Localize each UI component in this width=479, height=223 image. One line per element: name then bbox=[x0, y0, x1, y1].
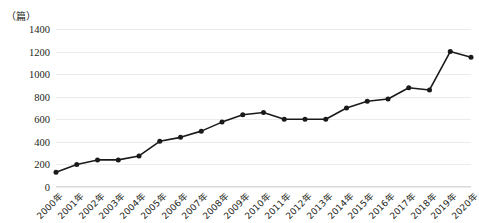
data-point bbox=[261, 110, 266, 115]
data-point bbox=[282, 117, 287, 122]
y-axis-tick-label: 1200 bbox=[29, 46, 50, 57]
data-point bbox=[469, 55, 474, 60]
data-point bbox=[427, 87, 432, 92]
y-axis-tick-label: 0 bbox=[45, 182, 50, 193]
data-point bbox=[240, 112, 245, 117]
data-point bbox=[448, 49, 453, 54]
data-point bbox=[323, 117, 328, 122]
data-point bbox=[74, 162, 79, 167]
data-point bbox=[95, 157, 100, 162]
data-point bbox=[386, 96, 391, 101]
y-axis-tick-label: 200 bbox=[34, 159, 50, 170]
data-point bbox=[199, 129, 204, 134]
data-point bbox=[54, 170, 59, 175]
data-point bbox=[344, 106, 349, 111]
data-point bbox=[220, 120, 225, 125]
data-point bbox=[365, 99, 370, 104]
plot-area: 0200400600800100012001400 bbox=[56, 29, 471, 187]
y-axis-tick-label: 800 bbox=[34, 91, 50, 102]
data-point bbox=[137, 153, 142, 158]
y-axis-unit-label: （篇） bbox=[6, 8, 36, 23]
y-axis-tick-label: 1400 bbox=[29, 24, 50, 35]
x-axis-ticks: 2000年2001年2002年2003年2004年2005年2006年2007年… bbox=[56, 190, 471, 223]
line-chart: （篇） 0200400600800100012001400 2000年2001年… bbox=[0, 0, 479, 223]
data-point bbox=[303, 117, 308, 122]
y-axis-tick-label: 1000 bbox=[29, 69, 50, 80]
data-point bbox=[157, 139, 162, 144]
gridline bbox=[56, 187, 471, 188]
y-axis-tick-label: 400 bbox=[34, 136, 50, 147]
data-point bbox=[116, 157, 121, 162]
data-point bbox=[178, 135, 183, 140]
y-axis-tick-label: 600 bbox=[34, 114, 50, 125]
data-point bbox=[406, 85, 411, 90]
series-markers bbox=[54, 49, 474, 175]
data-series bbox=[56, 29, 471, 187]
